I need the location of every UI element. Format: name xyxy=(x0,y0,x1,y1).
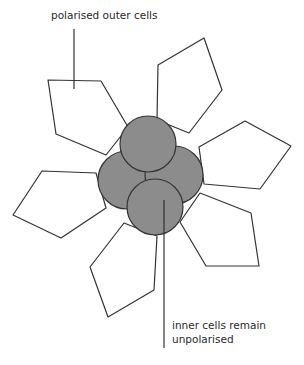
inner-cells-label: inner cells remain unpolarised xyxy=(172,318,266,346)
outer-cell-left xyxy=(13,171,106,238)
outer-cells-label-text: polarised outer cells xyxy=(51,8,157,22)
inner-cells-label-line2: unpolarised xyxy=(172,332,266,346)
outer-cell-lower-left xyxy=(90,223,157,317)
embryo-polarisation-diagram: polarised outer cells inner cells remain… xyxy=(0,0,304,365)
inner-cell-bottom xyxy=(127,179,183,235)
outer-cell-right xyxy=(199,121,291,189)
outer-cells-label: polarised outer cells xyxy=(51,8,157,22)
inner-cell-top xyxy=(120,116,176,172)
outer-cell-lower-right xyxy=(180,193,259,266)
outer-cell-upper-left xyxy=(48,80,128,155)
inner-cells-label-line1: inner cells remain xyxy=(172,318,266,332)
outer-cell-upper-right xyxy=(157,38,222,133)
diagram-svg xyxy=(0,0,304,365)
